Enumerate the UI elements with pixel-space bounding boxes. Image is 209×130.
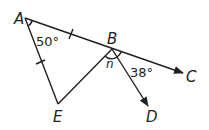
geometry-diagram: A B C D E 50° 38° n [0,0,209,130]
label-c: C [186,68,197,86]
angle-arc-38 [117,52,121,57]
label-d: D [146,108,158,126]
segment-eb [58,49,112,104]
label-b: B [107,30,117,48]
angle-label-n: n [106,57,114,71]
angle-arc-a [28,21,32,27]
label-e: E [53,108,63,126]
label-a: A [13,10,24,28]
angle-label-cbd: 38° [130,65,153,80]
tick-mark-ae [36,60,45,64]
angle-label-a: 50° [36,34,59,49]
